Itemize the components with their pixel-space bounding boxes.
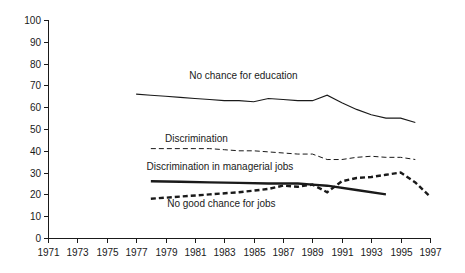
- series-label-1: Discrimination: [165, 133, 228, 144]
- y-tick-label: 60: [30, 102, 42, 113]
- x-tick-label: 1983: [213, 247, 236, 258]
- x-tick-label: 1975: [96, 247, 119, 258]
- series-line-0: [136, 94, 415, 122]
- y-tick-label: 90: [30, 37, 42, 48]
- y-tick-label: 50: [30, 124, 42, 135]
- x-tick-label: 1973: [66, 247, 89, 258]
- series-label-0: No chance for education: [189, 70, 297, 81]
- x-tick-label: 1997: [419, 247, 442, 258]
- x-tick-label: 1993: [360, 247, 383, 258]
- chart-container: 0102030405060708090100 19711973197519771…: [0, 0, 465, 273]
- x-tick-label: 1981: [184, 247, 207, 258]
- series-layer: [136, 94, 430, 199]
- x-tick-label: 1995: [390, 247, 413, 258]
- y-tick-label: 100: [24, 15, 41, 26]
- line-chart: 0102030405060708090100 19711973197519771…: [0, 0, 465, 273]
- y-tick-label: 10: [30, 211, 42, 222]
- series-label-2: Discrimination in managerial jobs: [147, 161, 294, 172]
- series-line-1: [151, 149, 415, 160]
- x-tick-label: 1977: [125, 247, 148, 258]
- x-tick-label: 1979: [155, 247, 178, 258]
- x-tick-label: 1985: [243, 247, 266, 258]
- x-axis: 1971197319751977197919811983198519871989…: [37, 238, 442, 258]
- y-axis: 0102030405060708090100: [24, 15, 48, 244]
- x-tick-label: 1989: [301, 247, 324, 258]
- y-tick-label: 70: [30, 80, 42, 91]
- x-tick-label: 1987: [272, 247, 295, 258]
- series-label-3: No good chance for jobs: [167, 198, 275, 209]
- y-tick-label: 30: [30, 168, 42, 179]
- series-line-3: [151, 173, 430, 199]
- y-tick-label: 0: [35, 233, 41, 244]
- x-tick-label: 1991: [331, 247, 354, 258]
- y-tick-label: 20: [30, 189, 42, 200]
- x-tick-label: 1971: [37, 247, 60, 258]
- y-tick-label: 40: [30, 146, 42, 157]
- series-line-2: [151, 181, 386, 194]
- y-tick-label: 80: [30, 59, 42, 70]
